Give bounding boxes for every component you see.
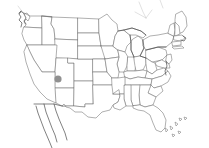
florida-keys [165,117,187,137]
state-arizona [55,88,74,106]
mexico-border-line [34,104,62,106]
state-florida [133,105,166,132]
state-south-dakota [78,33,101,46]
region-southeast [112,70,171,110]
region-mid-atlantic [143,33,174,79]
region-baja-california [34,104,67,148]
state-connecticut-rhode-island [172,41,181,46]
state-north-dakota [78,18,99,33]
state-wyoming [55,39,78,59]
map-canvas [0,0,209,148]
baja-peninsula-east-coast [44,104,57,142]
state-oregon [22,27,42,45]
state-illinois [117,50,128,72]
state-new-mexico [74,81,93,107]
gulf-of-california-mainland [54,104,67,140]
baja-peninsula-west-coast [36,106,52,148]
state-kansas [93,59,107,72]
long-island [172,46,184,49]
state-nebraska [78,46,105,59]
us-outline-map-figure [0,0,209,148]
state-ohio [134,56,146,71]
state-washington [19,11,42,28]
state-alabama [131,85,140,106]
location-dot[interactable] [54,75,61,82]
canada-border-faint-lines [18,0,163,18]
region-florida [133,105,187,137]
